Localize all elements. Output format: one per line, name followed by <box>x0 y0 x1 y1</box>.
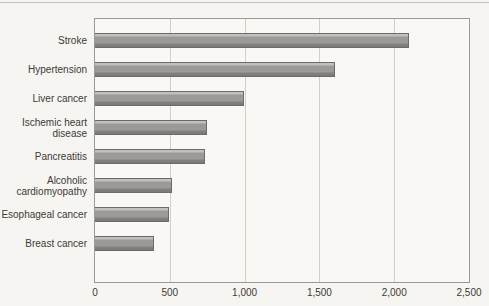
x-tick-label: 0 <box>92 287 98 298</box>
bar-pancreatitis <box>95 149 205 164</box>
gridline <box>319 19 320 282</box>
category-label: Ischemic heart disease <box>1 116 87 139</box>
category-label: Hypertension <box>1 64 87 76</box>
bar-stroke <box>95 33 409 48</box>
x-tick-label: 1,000 <box>232 287 257 298</box>
category-label: Stroke <box>1 35 87 47</box>
bar-hypertension <box>95 62 335 77</box>
category-label: Esophageal cancer <box>1 209 87 221</box>
category-axis: StrokeHypertensionLiver cancerIschemic h… <box>0 0 87 306</box>
gridline <box>394 19 395 282</box>
plot-area <box>94 18 470 283</box>
x-tick-label: 2,500 <box>456 287 481 298</box>
bar-chart-figure: StrokeHypertensionLiver cancerIschemic h… <box>0 0 489 306</box>
bar-breast-cancer <box>95 236 154 251</box>
bar-ischemic-heart-disease <box>95 120 207 135</box>
category-label: Alcoholic cardiomyopathy <box>1 174 87 197</box>
category-label: Pancreatitis <box>1 151 87 163</box>
bar-esophageal-cancer <box>95 207 169 222</box>
x-tick-label: 1,500 <box>307 287 332 298</box>
bar-liver-cancer <box>95 91 244 106</box>
x-tick-label: 500 <box>161 287 178 298</box>
bar-alcoholic-cardiomyopathy <box>95 178 172 193</box>
gridline <box>245 19 246 282</box>
x-tick-label: 2,000 <box>382 287 407 298</box>
category-label: Liver cancer <box>1 93 87 105</box>
category-label: Breast cancer <box>1 238 87 250</box>
